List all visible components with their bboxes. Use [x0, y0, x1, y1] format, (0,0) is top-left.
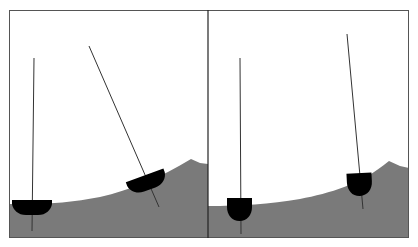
two-panel-diagram [0, 0, 418, 247]
left-boat-trough-hull [12, 200, 52, 215]
right-boat-slope [346, 34, 372, 209]
left-panel [10, 46, 208, 238]
left-boat-slope [89, 46, 169, 207]
diagram-canvas [0, 0, 418, 247]
left-wave-water [10, 159, 208, 238]
right-panel [208, 34, 409, 238]
right-boat-trough [227, 58, 252, 234]
left-boat-trough [12, 58, 52, 231]
